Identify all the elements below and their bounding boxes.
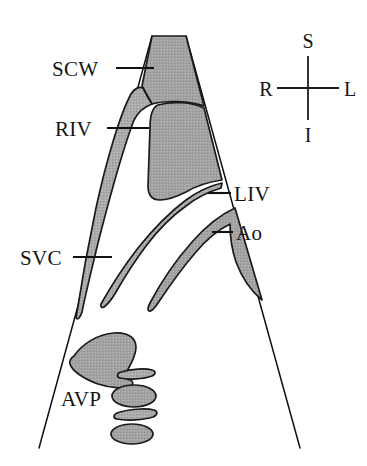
avp-ellipse-1 xyxy=(112,385,156,407)
compass-label-right: R xyxy=(259,78,273,100)
label-avp: AVP xyxy=(61,387,101,411)
avp-ellipse-2 xyxy=(111,424,153,444)
compass-label-inferior: I xyxy=(305,124,312,146)
orientation-compass: S I R L xyxy=(259,30,356,146)
label-liv: LIV xyxy=(234,182,270,206)
scw-region xyxy=(142,36,204,106)
figure-container: SCW RIV SVC LIV Ao AVP S I R L xyxy=(0,0,367,466)
label-ao: Ao xyxy=(236,221,262,245)
avp-sliver-2 xyxy=(114,409,157,420)
central-mass-region xyxy=(148,103,222,200)
label-scw: SCW xyxy=(52,57,98,81)
label-riv: RIV xyxy=(55,117,92,141)
label-svc: SVC xyxy=(20,246,62,270)
compass-label-left: L xyxy=(344,78,356,100)
anatomical-diagram: SCW RIV SVC LIV Ao AVP S I R L xyxy=(0,0,367,466)
compass-label-superior: S xyxy=(302,30,313,52)
